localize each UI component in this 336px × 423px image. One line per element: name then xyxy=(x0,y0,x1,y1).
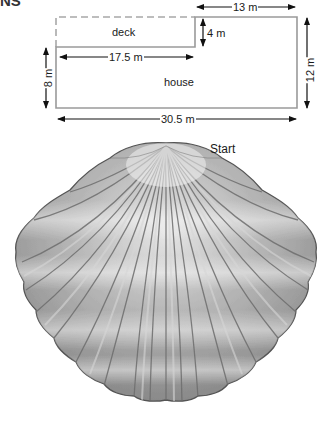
dim-label-30-5m: 30.5 m xyxy=(160,113,196,125)
deck-label: deck xyxy=(112,26,135,38)
diagram-canvas xyxy=(0,0,336,423)
dim-label-4m: 4 m xyxy=(207,27,225,39)
dim-label-8m: 8 m xyxy=(42,68,54,88)
shell-start-label: Start xyxy=(210,143,235,155)
dim-label-13m: 13 m xyxy=(232,1,258,13)
floor-plan xyxy=(46,7,307,119)
house-label: house xyxy=(164,76,194,88)
house-outline xyxy=(56,17,297,108)
dim-label-17-5m: 17.5 m xyxy=(108,51,144,63)
dim-label-12m: 12 m xyxy=(304,57,316,83)
scallop-shell xyxy=(0,143,336,402)
